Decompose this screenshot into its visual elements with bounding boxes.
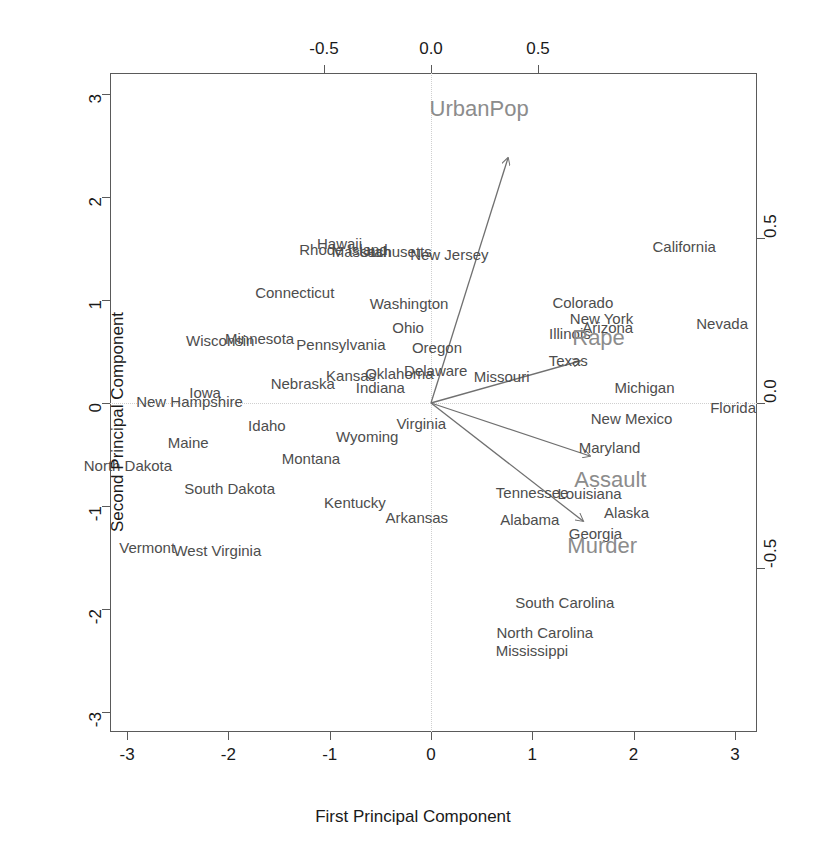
y-tick-label: 2 — [86, 197, 106, 206]
variable-label-assault: Assault — [574, 469, 646, 491]
observation-label: Oregon — [412, 340, 462, 355]
right-tick-label: 0.5 — [761, 214, 781, 238]
observation-label: Alaska — [604, 505, 649, 520]
observation-label: New Jersey — [410, 246, 488, 261]
observation-label: New York — [570, 311, 633, 326]
observation-label: Idaho — [248, 417, 286, 432]
x-tick-mark — [330, 732, 331, 740]
top-tick-label: 0.5 — [526, 39, 550, 59]
observation-label: Nebraska — [271, 376, 335, 391]
observation-label: Utah — [359, 244, 391, 259]
observation-label: Tennessee — [496, 484, 569, 499]
x-tick-label: -1 — [322, 745, 337, 765]
x-tick-label: 1 — [528, 745, 537, 765]
observation-label: Maine — [168, 434, 209, 449]
right-tick-label: -0.5 — [761, 539, 781, 568]
x-tick-mark — [431, 732, 432, 740]
observation-label: Nevada — [696, 316, 748, 331]
observation-label: Michigan — [615, 380, 675, 395]
observation-label: Colorado — [552, 295, 613, 310]
x-tick-mark — [532, 732, 533, 740]
top-tick-mark — [324, 65, 325, 73]
y-tick-label: 3 — [86, 94, 106, 103]
top-tick-label: -0.5 — [309, 39, 338, 59]
observation-label: Washington — [370, 296, 449, 311]
observation-label: New Hampshire — [136, 394, 243, 409]
right-tick-mark — [757, 568, 765, 569]
y-tick-label: -3 — [86, 712, 106, 727]
observation-label: Texas — [549, 353, 588, 368]
observation-label: Wisconsin — [186, 333, 254, 348]
observation-label: New Mexico — [591, 410, 673, 425]
y-axis-title: Second Principal Component — [108, 311, 128, 531]
top-tick-label: 0.0 — [419, 39, 443, 59]
y-tick-label: -1 — [86, 506, 106, 521]
observation-label: Alabama — [500, 511, 559, 526]
observation-label: Mississippi — [496, 642, 569, 657]
x-tick-label: 2 — [629, 745, 638, 765]
observation-label: Arkansas — [386, 510, 449, 525]
x-tick-label: 0 — [426, 745, 435, 765]
observation-label: Pennsylvania — [296, 337, 385, 352]
observation-label: South Carolina — [515, 595, 614, 610]
variable-label-urbanpop: UrbanPop — [430, 98, 529, 120]
y-tick-label: -2 — [86, 609, 106, 624]
x-tick-mark — [127, 732, 128, 740]
observation-label: Ohio — [392, 319, 424, 334]
y-tick-label: 0 — [86, 403, 106, 412]
observation-label: Vermont — [119, 539, 175, 554]
top-tick-mark — [538, 65, 539, 73]
observation-label: Maryland — [579, 440, 641, 455]
variable-label-rape: Rape — [572, 327, 625, 349]
observation-label: Kentucky — [324, 494, 386, 509]
x-tick-mark — [228, 732, 229, 740]
right-tick-label: 0.0 — [761, 379, 781, 403]
x-tick-mark — [735, 732, 736, 740]
observation-label: Montana — [282, 451, 340, 466]
observation-label: Florida — [710, 400, 756, 415]
right-tick-mark — [757, 238, 765, 239]
observation-label: West Virginia — [173, 542, 261, 557]
x-tick-label: -3 — [120, 745, 135, 765]
observation-label: Connecticut — [255, 285, 334, 300]
y-tick-label: 1 — [86, 300, 106, 309]
x-tick-label: 3 — [730, 745, 739, 765]
observation-label: Oklahoma — [365, 366, 433, 381]
x-axis-title: First Principal Component — [0, 807, 826, 827]
pca-biplot-figure: AlabamaAlaskaArizonaArkansasCaliforniaCo… — [0, 0, 826, 843]
top-tick-mark — [431, 65, 432, 73]
x-tick-label: -2 — [221, 745, 236, 765]
observation-label: Wyoming — [336, 429, 398, 444]
observation-label: California — [652, 238, 715, 253]
observation-label: North Carolina — [496, 625, 593, 640]
observation-label: South Dakota — [184, 480, 275, 495]
right-tick-mark — [757, 403, 765, 404]
observation-label: Virginia — [396, 416, 446, 431]
x-tick-mark — [634, 732, 635, 740]
observation-label: Missouri — [474, 368, 530, 383]
variable-label-murder: Murder — [567, 535, 637, 557]
